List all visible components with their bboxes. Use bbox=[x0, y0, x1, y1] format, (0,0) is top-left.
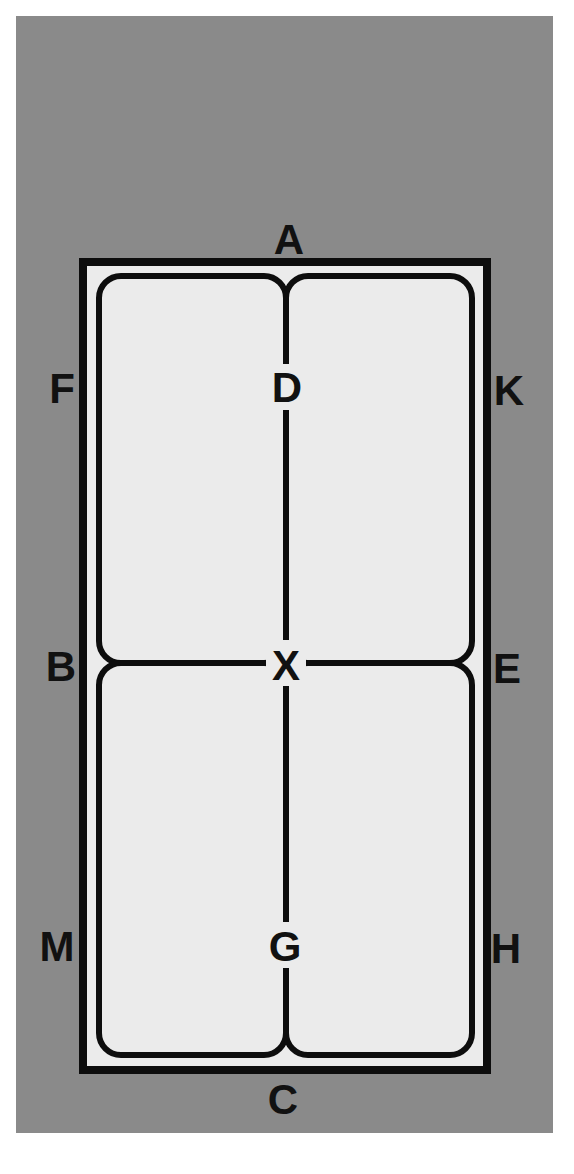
arena-diagram: A C F B M K E H D X G bbox=[0, 0, 574, 1174]
marker-x: X bbox=[272, 642, 300, 689]
marker-e: E bbox=[493, 645, 521, 692]
marker-c: C bbox=[268, 1076, 298, 1123]
marker-f: F bbox=[49, 365, 75, 412]
marker-m: M bbox=[40, 923, 75, 970]
marker-g: G bbox=[269, 923, 302, 970]
marker-d: D bbox=[272, 364, 302, 411]
marker-b: B bbox=[46, 643, 76, 690]
marker-h: H bbox=[491, 925, 521, 972]
marker-a: A bbox=[274, 216, 304, 263]
marker-k: K bbox=[494, 367, 524, 414]
